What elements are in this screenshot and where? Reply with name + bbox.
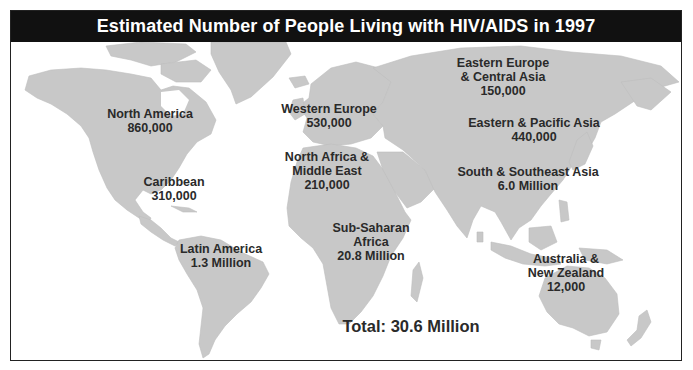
region-label-north-africa-middle-east: North Africa & Middle East 210,000 <box>285 150 369 192</box>
madagascar-shape <box>411 262 423 302</box>
region-name-line1: Sub-Saharan <box>332 221 409 235</box>
region-value: 150,000 <box>457 84 549 98</box>
region-name-line1: Eastern Europe <box>457 56 549 70</box>
region-value: 310,000 <box>143 189 204 203</box>
world-map <box>11 42 681 360</box>
region-name: Caribbean <box>143 175 204 189</box>
map-title: Estimated Number of People Living with H… <box>97 16 596 37</box>
region-value: 530,000 <box>281 116 377 130</box>
region-name: Latin America <box>180 242 262 256</box>
region-label-eastern-pacific-asia: Eastern & Pacific Asia 440,000 <box>468 116 600 144</box>
iceland-shape <box>289 76 309 88</box>
region-value: 440,000 <box>468 130 600 144</box>
region-value: 210,000 <box>285 178 369 192</box>
region-name-line2: Africa <box>332 235 409 249</box>
region-label-western-europe: Western Europe 530,000 <box>281 102 377 130</box>
region-name-line1: North Africa & <box>285 150 369 164</box>
region-value: 20.8 Million <box>332 249 409 263</box>
title-bar: Estimated Number of People Living with H… <box>11 11 681 42</box>
region-label-south-southeast-asia: South & Southeast Asia 6.0 Million <box>457 165 598 193</box>
region-name: South & Southeast Asia <box>457 165 598 179</box>
region-label-australia-new-zealand: Australia & New Zealand 12,000 <box>528 252 604 294</box>
total-text: Total: 30.6 Million <box>342 317 479 335</box>
region-name: Western Europe <box>281 102 377 116</box>
region-label-sub-saharan-africa: Sub-Saharan Africa 20.8 Million <box>332 221 409 263</box>
region-name-line2: & Central Asia <box>457 70 549 84</box>
region-value: 12,000 <box>528 280 604 294</box>
region-value: 1.3 Million <box>180 256 262 270</box>
region-name-line1: Australia & <box>528 252 604 266</box>
region-label-eastern-europe-central-asia: Eastern Europe & Central Asia 150,000 <box>457 56 549 98</box>
region-label-north-america: North America 860,000 <box>107 107 193 135</box>
region-label-latin-america: Latin America 1.3 Million <box>180 242 262 270</box>
borneo-shape <box>529 226 557 250</box>
region-value: 6.0 Million <box>457 179 598 193</box>
greenland-shape <box>211 42 291 104</box>
region-name-line2: Middle East <box>285 164 369 178</box>
arctic-islands-shape-2 <box>161 60 211 82</box>
region-value: 860,000 <box>107 121 193 135</box>
region-name-line2: New Zealand <box>528 266 604 280</box>
map-frame: Estimated Number of People Living with H… <box>10 10 682 361</box>
caribbean-islands-shape <box>171 206 197 212</box>
total-label: Total: 30.6 Million <box>342 317 479 336</box>
sri-lanka-shape <box>477 232 483 242</box>
central-america-shape <box>139 216 179 246</box>
region-name: Eastern & Pacific Asia <box>468 116 600 130</box>
philippines-shape <box>559 200 569 222</box>
new-zealand-shape <box>627 310 651 346</box>
region-name: North America <box>107 107 193 121</box>
region-label-caribbean: Caribbean 310,000 <box>143 175 204 203</box>
tasmania-shape <box>591 340 601 350</box>
